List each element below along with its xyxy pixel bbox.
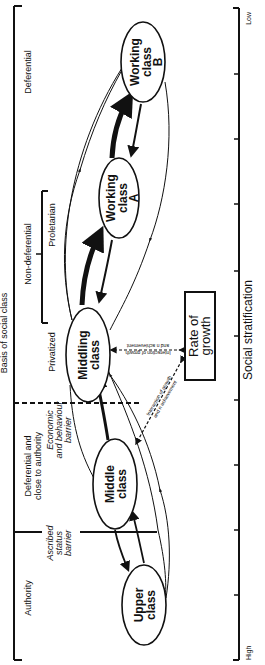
svg-text:Interaction of growth: Interaction of growth [125,350,171,356]
label-upper-class: Upper class [132,587,158,622]
svg-text:A: A [127,193,141,202]
label-non-deferential: Non-deferential [23,223,33,285]
svg-text:Privatized: Privatized [47,332,57,372]
label-interaction-lower: Interaction of growth and n achievement [145,374,179,420]
svg-text:barrier: barrier [63,529,73,556]
label-deferential-close-to-authority: Deferential and close to authority [23,431,43,500]
svg-text:High: High [245,645,253,660]
svg-text:class: class [88,340,102,370]
label-proletarian: Proletarian [47,203,57,247]
svg-text:class: class [144,590,158,620]
label-rate-of-growth: Rate of growth [186,315,213,357]
svg-text:Deferential and: Deferential and [23,435,33,496]
svg-text:Deferential: Deferential [23,50,33,94]
label-high: High [245,645,253,660]
label-low: Low [245,11,252,25]
svg-text:and n achievement: and n achievement [126,343,169,349]
svg-text:Low: Low [245,11,252,25]
stratification-axis-title: Social stratification [241,280,255,380]
label-middle-class: Middle class [103,465,129,503]
label-ascribed-status-barrier: Ascribed status barrier [45,524,73,561]
svg-text:close to authority: close to authority [33,431,43,500]
label-deferential: Deferential [23,50,33,94]
svg-text:growth: growth [198,316,213,355]
svg-text:Proletarian: Proletarian [47,203,57,247]
svg-text:Basis of social class: Basis of social class [0,292,9,373]
svg-text:Authority: Authority [23,580,33,616]
label-authority: Authority [23,580,33,616]
label-privatized: Privatized [47,332,57,372]
svg-text:Non-deferential: Non-deferential [23,223,33,285]
svg-text:class: class [115,469,129,499]
stratification-axis [233,8,239,660]
label-economic-barrier: Economic and behaviour barrier [45,400,73,458]
svg-text:Social stratification: Social stratification [241,280,255,380]
svg-text:B: B [151,57,165,66]
svg-text:barrier: barrier [63,416,73,443]
social-class-diagram: Working class B Working class A Middling… [0,0,265,665]
basis-axis-title: Basis of social class [0,292,9,373]
label-interaction-upper: Interaction of growth and n achievement [125,343,171,356]
